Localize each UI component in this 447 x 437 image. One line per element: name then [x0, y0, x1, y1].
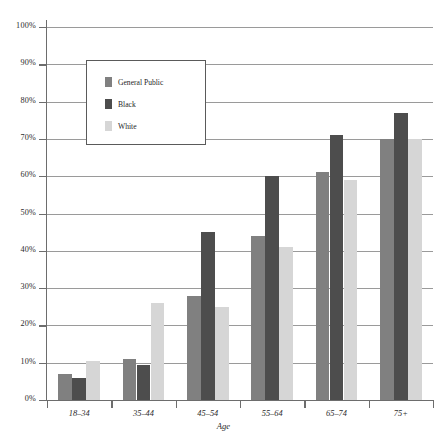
- bar-general-public-75+: [380, 139, 394, 400]
- bar-chart: 0%10%20%30%40%50%60%70%80%90%100% 18–343…: [0, 0, 447, 437]
- x-axis-tick: [304, 401, 305, 408]
- y-axis-tick: [39, 139, 46, 140]
- y-axis-tick-label: 100%: [16, 21, 36, 30]
- x-axis-tick-label: 75+: [394, 409, 408, 418]
- x-axis-tick: [240, 401, 241, 408]
- x-axis-tick-label: 65–74: [326, 409, 347, 418]
- legend-item: Black: [105, 93, 205, 115]
- x-axis-tick-label: 18–34: [69, 409, 90, 418]
- y-axis-tick: [39, 214, 46, 215]
- bar-white-18-34: [86, 361, 100, 400]
- x-axis-title: Age: [0, 421, 447, 431]
- bar-black-75+: [394, 113, 408, 400]
- x-axis-tick: [47, 401, 48, 408]
- bar-white-65-74: [344, 180, 358, 400]
- legend-label: Black: [118, 100, 136, 109]
- bar-general-public-65-74: [316, 172, 330, 400]
- gridline: [47, 251, 433, 252]
- bar-white-55-64: [279, 247, 293, 400]
- bar-black-55-64: [265, 176, 279, 400]
- legend-label: General Public: [118, 78, 163, 87]
- y-axis-tick-label: 30%: [20, 282, 36, 291]
- gridline: [47, 325, 433, 326]
- bar-white-35-44: [151, 303, 165, 400]
- y-axis-tick-label: 20%: [20, 319, 36, 328]
- gridline: [47, 214, 433, 215]
- x-axis-tick: [369, 401, 370, 408]
- legend-item: General Public: [105, 71, 205, 93]
- x-axis-tick: [176, 401, 177, 408]
- x-axis-tick-label: 45–54: [197, 409, 218, 418]
- y-axis-tick-label: 10%: [20, 357, 36, 366]
- y-axis-tick-label: 80%: [20, 96, 36, 105]
- y-axis-tick-label: 70%: [20, 133, 36, 142]
- y-axis-tick: [39, 363, 46, 364]
- legend-swatch-icon: [105, 121, 112, 131]
- y-axis-tick: [39, 27, 46, 28]
- gridline: [47, 363, 433, 364]
- bar-general-public-45-54: [187, 296, 201, 400]
- bar-black-18-34: [72, 378, 86, 400]
- legend-swatch-icon: [105, 77, 112, 87]
- y-axis-tick-label: 0%: [25, 394, 36, 403]
- y-axis-tick: [39, 325, 46, 326]
- legend-swatch-icon: [105, 99, 112, 109]
- gridline: [47, 27, 433, 28]
- y-axis-tick: [39, 176, 46, 177]
- y-axis-tick-label: 40%: [20, 245, 36, 254]
- bar-black-65-74: [330, 135, 344, 400]
- bar-black-45-54: [201, 232, 215, 400]
- chart-legend: General PublicBlackWhite: [86, 60, 206, 145]
- gridline: [47, 288, 433, 289]
- x-axis-tick: [433, 401, 434, 408]
- bar-white-45-54: [215, 307, 229, 400]
- y-axis-tick-label: 50%: [20, 208, 36, 217]
- x-axis-tick-label: 35–44: [133, 409, 154, 418]
- y-axis-tick: [39, 102, 46, 103]
- x-axis-tick-label: 55–64: [262, 409, 283, 418]
- legend-label: White: [118, 122, 137, 131]
- y-axis-tick: [39, 64, 46, 65]
- gridline: [47, 176, 433, 177]
- y-axis-tick-label: 90%: [20, 58, 36, 67]
- bar-general-public-35-44: [123, 359, 137, 400]
- y-axis-tick: [39, 251, 46, 252]
- x-axis-tick: [111, 401, 112, 408]
- legend-item: White: [105, 115, 205, 137]
- bar-black-35-44: [137, 365, 151, 400]
- bar-white-75+: [408, 139, 422, 400]
- bar-general-public-55-64: [251, 236, 265, 400]
- bar-general-public-18-34: [58, 374, 72, 400]
- y-axis-tick-label: 60%: [20, 170, 36, 179]
- y-axis-tick: [39, 288, 46, 289]
- y-axis-tick: [39, 400, 46, 401]
